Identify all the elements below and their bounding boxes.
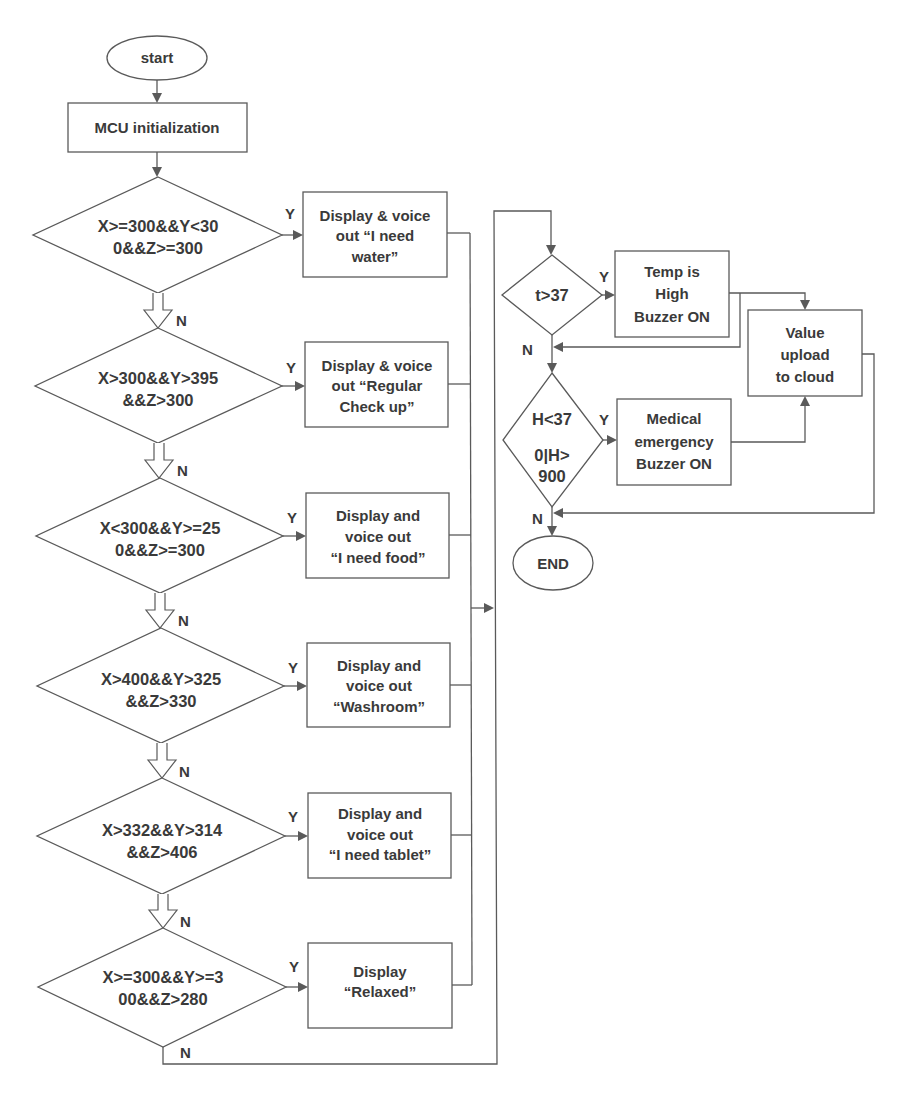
arrow-medical-to-upload <box>731 396 810 442</box>
action-line: Display and <box>336 507 420 524</box>
arrow-start-to-init <box>152 80 162 103</box>
temp-high-box: Temp is High Buzzer ON <box>615 251 729 337</box>
hollow-arrow-no-4 <box>148 743 176 778</box>
action-line: Display and <box>337 657 421 674</box>
condition-line: t>37 <box>535 286 568 304</box>
action-line: Medical <box>646 410 701 427</box>
start-label: start <box>141 49 174 66</box>
condition-line: X>=300&&Y>=3 <box>102 968 223 986</box>
condition-line: 0|H> <box>534 446 569 464</box>
upload-to-cloud-box: Value upload to cloud <box>748 310 862 396</box>
action-line: water” <box>351 248 399 265</box>
main-trunk-connector <box>163 211 556 1064</box>
condition-line: X>400&&Y>325 <box>101 670 221 688</box>
action-box-3: Display and voice out “I need food” <box>306 493 449 578</box>
gesture-check-6: X>=300&&Y>=3 00&&Z>280 <box>38 928 286 1047</box>
condition-line: X>332&&Y>314 <box>102 821 223 839</box>
no-label: N <box>176 312 187 329</box>
yes-label: Y <box>285 205 295 222</box>
heart-rate-check: H<37 0|H> 900 <box>503 373 603 507</box>
action-line: voice out <box>346 677 412 694</box>
action-line: voice out <box>347 826 413 843</box>
action-line: Display & voice <box>320 207 431 224</box>
gesture-check-1: X>=300&&Y<30 0&&Z>=300 <box>33 177 282 293</box>
medical-emergency-box: Medical emergency Buzzer ON <box>617 399 731 485</box>
action-box-6: Display “Relaxed” <box>308 943 452 1028</box>
condition-line: 0&&Z>=300 <box>115 541 205 559</box>
condition-line: X<300&&Y>=25 <box>100 519 221 537</box>
condition-line: &&Z>406 <box>126 843 197 861</box>
arrow-yes-1 <box>282 230 303 240</box>
gesture-check-5: X>332&&Y>314 &&Z>406 <box>37 778 285 894</box>
action-line: “Relaxed” <box>344 983 417 1000</box>
yes-label: Y <box>288 808 298 825</box>
condition-line: 900 <box>538 467 566 485</box>
action-line: Buzzer ON <box>636 455 712 472</box>
action-line: Temp is <box>644 263 700 280</box>
start-terminal: start <box>107 36 207 80</box>
flowchart: start MCU initialization X>=300&&Y<30 0&… <box>0 0 905 1094</box>
hollow-arrow-no-2 <box>145 443 173 478</box>
no-label: N <box>179 763 190 780</box>
no-label: N <box>522 341 533 358</box>
action-line: Display & voice <box>322 357 433 374</box>
gesture-check-4: X>400&&Y>325 &&Z>330 <box>37 628 284 743</box>
condition-line: &&Z>300 <box>122 391 193 409</box>
arrow-yes-3 <box>283 531 306 541</box>
upload-line: to cloud <box>776 368 834 385</box>
no-label: N <box>532 510 543 527</box>
condition-line: H<37 <box>532 410 572 428</box>
gesture-check-3: X<300&&Y>=25 0&&Z>=300 <box>36 478 283 593</box>
init-label: MCU initialization <box>95 119 220 136</box>
hollow-arrow-no-5 <box>149 894 177 928</box>
action-line: “Washroom” <box>333 698 425 715</box>
action-line: out “Regular <box>332 377 423 394</box>
arrow-init-to-check-1 <box>152 152 162 177</box>
upload-line: Value <box>785 324 824 341</box>
action-line: Display and <box>338 805 422 822</box>
yes-label: Y <box>599 411 609 428</box>
arrow-heart-no <box>547 507 557 536</box>
yes-label: Y <box>599 268 609 285</box>
action-box-1: Display & voice out “I need water” <box>303 192 447 277</box>
no-label: N <box>178 612 189 629</box>
action-line: Check up” <box>339 398 414 415</box>
action-box-5: Display and voice out “I need tablet” <box>308 793 451 878</box>
end-label: END <box>537 555 569 572</box>
action-line: out “I need <box>336 227 414 244</box>
yes-label: Y <box>289 958 299 975</box>
action-line: emergency <box>634 433 714 450</box>
arrow-temp-to-upload <box>729 293 810 310</box>
yes-label: Y <box>286 359 296 376</box>
arrow-yes-5 <box>285 831 308 841</box>
action-box-2: Display & voice out “Regular Check up” <box>305 342 448 427</box>
gesture-check-2: X>300&&Y>395 &&Z>300 <box>35 328 282 443</box>
arrow-temp-yes <box>602 290 615 300</box>
condition-line: 00&&Z>280 <box>118 990 207 1008</box>
action-line: “I need tablet” <box>329 846 432 863</box>
condition-line: 0&&Z>=300 <box>113 239 203 257</box>
no-label: N <box>177 462 188 479</box>
temperature-check: t>37 <box>502 255 602 335</box>
arrow-yes-4 <box>284 681 307 691</box>
no-label: N <box>180 913 191 930</box>
no-label: N <box>180 1044 191 1061</box>
action-line: Display <box>353 963 407 980</box>
condition-line: &&Z>330 <box>125 692 196 710</box>
action-line: Buzzer ON <box>634 308 710 325</box>
yes-label: Y <box>288 659 298 676</box>
end-terminal: END <box>513 536 593 590</box>
hollow-arrow-no-1 <box>144 293 172 328</box>
arrow-yes-2 <box>282 381 305 391</box>
action-line: voice out <box>345 528 411 545</box>
condition-line: X>300&&Y>395 <box>98 369 218 387</box>
action-collector-connector <box>447 233 494 985</box>
action-line: “I need food” <box>331 549 426 566</box>
arrow-yes-6 <box>286 982 308 992</box>
arrow-temp-no <box>547 335 557 373</box>
action-line: High <box>655 285 688 302</box>
condition-line: X>=300&&Y<30 <box>98 217 219 235</box>
action-box-4: Display and voice out “Washroom” <box>307 643 450 727</box>
init-process-box: MCU initialization <box>68 103 247 152</box>
yes-label: Y <box>287 509 297 526</box>
